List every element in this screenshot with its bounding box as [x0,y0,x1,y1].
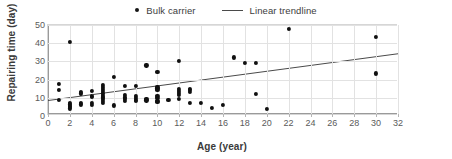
x-tick-label: 26 [320,118,344,128]
gridline-vertical [267,25,268,114]
y-tick-label: 50 [5,20,45,30]
x-axis-title: Age (year) [47,141,397,152]
plot-area: 0102030405002468101214161820222426283032 [47,24,397,115]
x-tick-mark [136,114,137,117]
x-tick-mark [332,114,333,117]
x-tick-label: 30 [364,118,388,128]
y-tick-label: 10 [5,93,45,103]
x-tick-mark [223,114,224,117]
x-tick-label: 8 [124,118,148,128]
x-tick-label: 28 [342,118,366,128]
legend-item-bulk-carrier: Bulk carrier [135,5,195,16]
x-tick-label: 6 [102,118,126,128]
x-tick-mark [201,114,202,117]
x-tick-mark [157,114,158,117]
legend-label-linear-trendline: Linear trendline [250,5,317,16]
gridline-vertical [311,25,312,114]
x-tick-label: 32 [386,118,410,128]
x-tick-mark [376,114,377,117]
gridline-vertical [289,25,290,114]
x-tick-label: 4 [80,118,104,128]
x-tick-mark [267,114,268,117]
x-tick-label: 18 [233,118,257,128]
gridline-vertical [179,25,180,114]
x-tick-label: 22 [277,118,301,128]
x-tick-label: 12 [167,118,191,128]
x-tick-mark [48,114,49,117]
x-tick-label: 14 [189,118,213,128]
x-tick-mark [354,114,355,117]
gridline-vertical [398,25,399,114]
gridline-vertical [332,25,333,114]
y-tick-label: 30 [5,56,45,66]
x-tick-label: 24 [299,118,323,128]
chart-legend: Bulk carrier Linear trendline [0,1,452,19]
x-tick-label: 10 [145,118,169,128]
gridline-vertical [223,25,224,114]
x-tick-mark [289,114,290,117]
x-tick-mark [114,114,115,117]
gridline-vertical [114,25,115,114]
x-tick-label: 20 [255,118,279,128]
y-tick-label: 20 [5,75,45,85]
gridline-vertical [354,25,355,114]
x-tick-mark [311,114,312,117]
x-tick-label: 16 [211,118,235,128]
x-tick-label: 0 [36,118,60,128]
legend-item-linear-trendline: Linear trendline [222,5,317,16]
y-tick-label: 40 [5,38,45,48]
legend-label-bulk-carrier: Bulk carrier [146,5,195,16]
x-tick-mark [70,114,71,117]
gridline-vertical [245,25,246,114]
legend-line-icon [222,10,243,11]
x-tick-mark [245,114,246,117]
legend-dot-icon [135,8,139,12]
x-tick-mark [92,114,93,117]
scatter-chart: Bulk carrier Linear trendline Repairing … [0,0,452,159]
x-tick-mark [179,114,180,117]
x-tick-mark [398,114,399,117]
x-tick-label: 2 [58,118,82,128]
